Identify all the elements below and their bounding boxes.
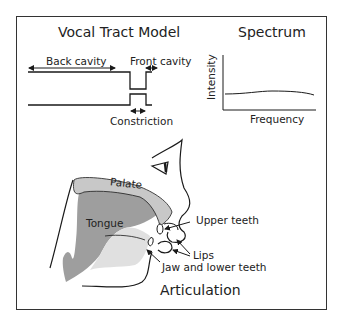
spectrum-axes	[223, 55, 316, 110]
front-cavity-label: Front cavity	[130, 56, 192, 67]
lower-lip	[158, 241, 172, 252]
articulation-title: Articulation	[160, 283, 241, 297]
frequency-axis-label: Frequency	[250, 114, 304, 125]
constriction-label: Constriction	[110, 116, 173, 127]
spectrum-curve	[225, 91, 314, 95]
vocal-tract-diagram	[0, 0, 344, 324]
spectrum-title: Spectrum	[238, 25, 306, 39]
vocal-tract-model-title: Vocal Tract Model	[58, 25, 180, 39]
upper-teeth	[157, 224, 163, 234]
lips-label: Lips	[193, 250, 214, 261]
jaw-lower-teeth-label: Jaw and lower teeth	[162, 262, 266, 273]
upper-teeth-label: Upper teeth	[196, 215, 259, 226]
back-cavity-label: Back cavity	[46, 56, 107, 67]
intensity-axis-label: Intensity	[206, 54, 217, 100]
tube-model	[28, 72, 152, 105]
tongue-label: Tongue	[86, 218, 124, 229]
